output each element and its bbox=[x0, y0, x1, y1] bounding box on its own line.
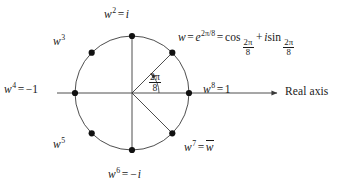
label-w4-relation: = bbox=[16, 83, 26, 95]
label-w4: w4=−1 bbox=[4, 84, 38, 96]
label-w8-relation: = bbox=[215, 83, 225, 95]
point-w2 bbox=[129, 33, 135, 39]
label-w7-conjugate-value: w bbox=[206, 140, 214, 152]
angle-denominator: 8 bbox=[152, 83, 157, 93]
label-w-plus: + bbox=[255, 31, 265, 43]
label-w8: w8=1 bbox=[203, 84, 231, 96]
label-w-cos-fraction: 2π8 bbox=[242, 38, 255, 57]
label-angle-value: 2π8 bbox=[148, 71, 162, 93]
label-w-exponent-fraction: 2π/8 bbox=[201, 29, 216, 38]
label-w-cos-fn: cos bbox=[225, 31, 242, 43]
label-w2-base: w bbox=[104, 8, 112, 20]
label-w3-base: w bbox=[53, 35, 61, 47]
angle-numerator: 2π bbox=[149, 72, 161, 83]
label-w-relation-2: = bbox=[215, 31, 225, 43]
point-w3 bbox=[89, 50, 95, 56]
label-w6-base: w bbox=[108, 168, 116, 180]
angle-fraction: 2π8 bbox=[148, 72, 162, 93]
point-w6 bbox=[129, 147, 135, 153]
label-w3-exponent: 3 bbox=[61, 33, 65, 42]
label-w-sin-fraction: 2π8 bbox=[282, 38, 295, 57]
point-w8 bbox=[186, 90, 192, 96]
point-w5 bbox=[89, 130, 95, 136]
real-axis-label: Real axis bbox=[285, 86, 328, 98]
label-w3: w3 bbox=[53, 36, 65, 48]
label-w2-value: i bbox=[126, 8, 129, 20]
label-w5: w5 bbox=[53, 139, 65, 151]
point-w bbox=[169, 50, 175, 56]
point-w7 bbox=[169, 130, 175, 136]
label-w2: w2=i bbox=[104, 9, 129, 21]
label-w-sin-fn: sin bbox=[267, 31, 282, 43]
label-w5-base: w bbox=[53, 138, 61, 150]
label-w8-value: 1 bbox=[225, 83, 231, 95]
label-w-exp-base: e bbox=[195, 31, 200, 43]
complex-plane-figure: w2=i w3 w4=−1 w5 w6=−i w7=w w8=1 w=e2π/8… bbox=[0, 0, 352, 189]
label-w7-base: w bbox=[184, 141, 192, 153]
label-w5-exponent: 5 bbox=[61, 136, 65, 145]
label-w4-base: w bbox=[4, 83, 12, 95]
label-w-relation: = bbox=[186, 31, 196, 43]
label-w2-relation: = bbox=[116, 8, 126, 20]
label-w6-relation: = bbox=[120, 168, 130, 180]
label-w8-base: w bbox=[203, 83, 211, 95]
label-w-exp-numerator: 2π bbox=[201, 29, 209, 38]
label-w-sin-denominator: 8 bbox=[286, 48, 290, 57]
label-w-base: w bbox=[178, 31, 186, 43]
label-w6: w6=−i bbox=[108, 169, 141, 181]
point-w4 bbox=[72, 90, 78, 96]
label-w-cos-denominator: 8 bbox=[246, 48, 250, 57]
radius-to-w7 bbox=[132, 93, 172, 133]
label-w7-relation: = bbox=[196, 141, 206, 153]
label-w-formula: w=e2π/8=cos2π8+isin2π8 bbox=[178, 32, 295, 57]
label-w7: w7=w bbox=[184, 140, 214, 153]
label-w4-value: −1 bbox=[26, 83, 38, 95]
label-w6-value: −i bbox=[130, 168, 141, 180]
